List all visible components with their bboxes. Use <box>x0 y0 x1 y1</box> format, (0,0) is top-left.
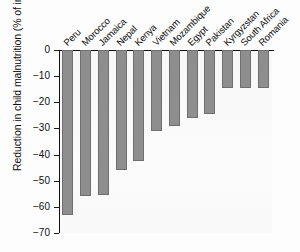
y-axis-tick-labels: 0−10−20−30−40−50−60−70 <box>16 44 50 240</box>
bar <box>80 50 91 196</box>
y-tick-mark <box>54 128 59 129</box>
bar <box>204 50 215 114</box>
y-tick-label: −10 <box>16 70 50 81</box>
bar <box>98 50 109 195</box>
y-tick-mark <box>54 50 59 51</box>
y-tick-label: −20 <box>16 96 50 107</box>
y-tick-mark <box>54 102 59 103</box>
y-axis-spine <box>59 50 60 233</box>
category-label: Peru <box>61 26 83 48</box>
y-tick-label: −60 <box>16 201 50 212</box>
bar <box>133 50 144 161</box>
bar <box>116 50 127 170</box>
y-tick-label: −50 <box>16 175 50 186</box>
bar <box>62 50 73 215</box>
bar <box>151 50 162 131</box>
bar <box>222 50 233 88</box>
chart-figure: Reduction in child malnutrition (% of in… <box>0 0 300 252</box>
y-tick-mark <box>54 76 59 77</box>
y-tick-label: 0 <box>16 44 50 55</box>
bar <box>187 50 198 118</box>
y-tick-mark <box>54 233 59 234</box>
y-tick-label: −70 <box>16 227 50 238</box>
y-tick-label: −40 <box>16 149 50 160</box>
y-tick-mark <box>54 155 59 156</box>
y-tick-mark <box>54 207 59 208</box>
bar <box>169 50 180 126</box>
bar <box>240 50 251 88</box>
y-tick-mark <box>54 181 59 182</box>
bar <box>258 50 269 88</box>
y-tick-label: −30 <box>16 122 50 133</box>
